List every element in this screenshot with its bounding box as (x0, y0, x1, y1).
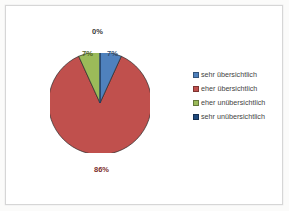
legend-swatch-icon (193, 86, 199, 92)
legend-item-eher-uebersichtlich[interactable]: eher übersichtlich (193, 82, 289, 96)
pie-label-eher-unuebersichtlich: 7% (82, 50, 93, 58)
legend-item-label: eher unübersichtlich (201, 99, 265, 106)
legend-swatch-icon (193, 72, 199, 78)
legend-swatch-icon (193, 114, 199, 120)
pie-label-eher-uebersichtlich: 86% (94, 166, 109, 174)
plot-area: 0% 7% 7% 86% sehr übersichtlich eher übe… (6, 6, 282, 204)
chart-legend: sehr übersichtlich eher übersichtlich eh… (193, 68, 289, 124)
pie-label-sehr-uebersichtlich: 7% (107, 50, 118, 58)
legend-item-label: sehr übersichtlich (201, 71, 257, 78)
legend-item-eher-unuebersichtlich[interactable]: eher unübersichtlich (193, 96, 289, 110)
pie-label-sehr-unuebersichtlich: 0% (92, 28, 103, 36)
pie-chart (50, 53, 150, 153)
screenshot-root: 0% 7% 7% 86% sehr übersichtlich eher übe… (0, 0, 289, 211)
chart-frame: 0% 7% 7% 86% sehr übersichtlich eher übe… (5, 5, 283, 205)
legend-swatch-icon (193, 100, 199, 106)
legend-item-label: sehr unübersichtlich (201, 113, 265, 120)
legend-item-label: eher übersichtlich (201, 85, 257, 92)
pie-svg (50, 53, 150, 153)
legend-item-sehr-unuebersichtlich[interactable]: sehr unübersichtlich (193, 110, 289, 124)
legend-item-sehr-uebersichtlich[interactable]: sehr übersichtlich (193, 68, 289, 82)
